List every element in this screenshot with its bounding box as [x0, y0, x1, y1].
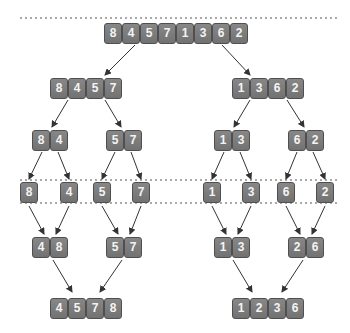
array-merge-1: 26 — [288, 237, 324, 258]
arrow-icon — [29, 206, 44, 234]
arrow-icon — [286, 206, 300, 234]
array-split-2: 57 — [106, 130, 142, 151]
arrow-icon — [212, 206, 226, 234]
arrow-icon — [58, 152, 69, 179]
arrow-icon — [56, 206, 69, 234]
array-split-2: 62 — [288, 130, 324, 151]
array-singletons: 1 — [203, 182, 221, 203]
array-cell: 6 — [286, 298, 304, 319]
arrow-icon — [287, 100, 304, 127]
array-cell: 5 — [86, 78, 104, 99]
array-split-1: 8457 — [50, 78, 122, 99]
array-singletons: 5 — [93, 182, 111, 203]
array-cell: 2 — [306, 130, 324, 151]
array-cell: 5 — [68, 298, 86, 319]
array-singletons: 6 — [277, 182, 295, 203]
merge-sort-diagram: 8457136284571362845713628457136248571326… — [0, 0, 350, 333]
array-split-2: 84 — [32, 130, 68, 151]
arrow-icon — [312, 206, 325, 234]
arrow-icon — [102, 152, 115, 179]
arrow-icon — [286, 152, 297, 179]
arrow-icon — [222, 45, 250, 75]
array-cell: 6 — [268, 78, 286, 99]
array-cell: 5 — [93, 182, 111, 203]
arrow-icon — [234, 100, 250, 127]
array-split-2: 13 — [214, 130, 250, 151]
arrow-icon — [105, 100, 121, 127]
array-singletons: 7 — [132, 182, 150, 203]
arrow-icon — [233, 260, 252, 292]
array-cell: 3 — [242, 182, 260, 203]
arrow-icon — [313, 152, 325, 179]
array-cell: 6 — [306, 237, 324, 258]
arrow-icon — [100, 260, 122, 292]
array-singletons: 3 — [242, 182, 260, 203]
array-cell: 7 — [158, 23, 176, 44]
arrow-icon — [212, 152, 224, 179]
array-cell: 4 — [32, 237, 50, 258]
array-cell: 2 — [316, 182, 334, 203]
array-cell: 6 — [288, 130, 306, 151]
array-cell: 7 — [124, 237, 142, 258]
array-cell: 5 — [106, 130, 124, 151]
array-merge-2: 1236 — [232, 298, 304, 319]
array-cell: 3 — [194, 23, 212, 44]
arrow-icon — [130, 206, 141, 234]
array-cell: 2 — [286, 78, 304, 99]
array-cell: 8 — [20, 182, 38, 203]
array-merge-1: 13 — [214, 237, 250, 258]
array-cell: 4 — [68, 78, 86, 99]
array-cell: 3 — [232, 130, 250, 151]
connector-layer — [0, 0, 350, 333]
arrow-icon — [240, 152, 251, 179]
array-cell: 7 — [104, 78, 122, 99]
array-cell: 1 — [232, 298, 250, 319]
array-cell: 8 — [32, 130, 50, 151]
array-cell: 3 — [268, 298, 286, 319]
array-cell: 4 — [50, 298, 68, 319]
array-cell: 6 — [212, 23, 230, 44]
array-cell: 8 — [50, 78, 68, 99]
array-merge-1: 48 — [32, 237, 68, 258]
array-cell: 2 — [288, 237, 306, 258]
arrow-icon — [29, 152, 42, 179]
array-cell: 3 — [232, 237, 250, 258]
array-cell: 4 — [60, 182, 78, 203]
array-split-1: 1362 — [232, 78, 304, 99]
array-input: 84571362 — [104, 23, 248, 44]
array-merge-1: 57 — [106, 237, 142, 258]
array-cell: 7 — [132, 182, 150, 203]
array-cell: 7 — [124, 130, 142, 151]
array-merge-2: 4578 — [50, 298, 122, 319]
array-cell: 1 — [214, 237, 232, 258]
array-cell: 2 — [230, 23, 248, 44]
array-cell: 4 — [50, 130, 68, 151]
array-cell: 2 — [250, 298, 268, 319]
arrow-icon — [105, 45, 135, 75]
array-cell: 3 — [250, 78, 268, 99]
arrow-icon — [238, 206, 251, 234]
array-cell: 8 — [50, 237, 68, 258]
array-singletons: 4 — [60, 182, 78, 203]
array-cell: 1 — [176, 23, 194, 44]
arrow-icon — [53, 260, 72, 292]
array-cell: 1 — [214, 130, 232, 151]
array-cell: 4 — [122, 23, 140, 44]
array-singletons: 2 — [316, 182, 334, 203]
array-cell: 7 — [86, 298, 104, 319]
array-cell: 8 — [104, 298, 122, 319]
array-singletons: 8 — [20, 182, 38, 203]
arrow-icon — [52, 100, 68, 127]
array-cell: 5 — [140, 23, 158, 44]
array-cell: 6 — [277, 182, 295, 203]
array-cell: 8 — [104, 23, 122, 44]
arrow-icon — [282, 260, 303, 292]
array-cell: 1 — [203, 182, 221, 203]
arrow-icon — [102, 206, 118, 234]
arrow-icon — [131, 152, 141, 179]
array-cell: 5 — [106, 237, 124, 258]
array-cell: 1 — [232, 78, 250, 99]
